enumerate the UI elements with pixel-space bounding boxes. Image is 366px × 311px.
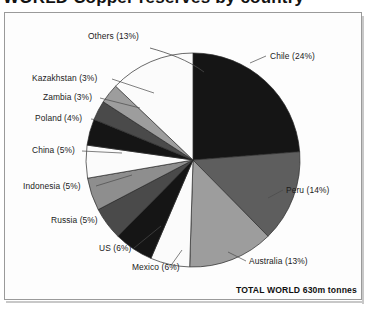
slice-label-us: US (6%) (99, 243, 131, 253)
slice-label-chile: Chile (24%) (270, 51, 315, 61)
slice-label-australia: Australia (13%) (249, 256, 308, 266)
slice-label-kazakhstan: Kazakhstan (3%) (32, 73, 97, 83)
slice-label-china: China (5%) (32, 145, 75, 155)
slice-label-poland: Poland (4%) (35, 113, 82, 123)
slice-label-mexico: Mexico (6%) (132, 262, 180, 272)
slice-label-indonesia: Indonesia (5%) (23, 181, 81, 191)
slice-label-russia: Russia (5%) (51, 215, 98, 225)
slice-label-peru: Peru (14%) (286, 185, 329, 195)
leader-line-chile (250, 56, 266, 63)
slice-label-zambia: Zambia (3%) (43, 92, 92, 102)
pie-chart-svg (0, 0, 366, 311)
pie-chart (0, 0, 366, 311)
pie-slices (86, 53, 300, 267)
total-world-label: TOTAL WORLD 630m tonnes (236, 285, 357, 295)
pie-slice-chile (193, 53, 300, 160)
slice-label-others: Others (13%) (88, 31, 139, 41)
chart-screenshot: WORLD Copper reserves by country (0, 0, 366, 311)
